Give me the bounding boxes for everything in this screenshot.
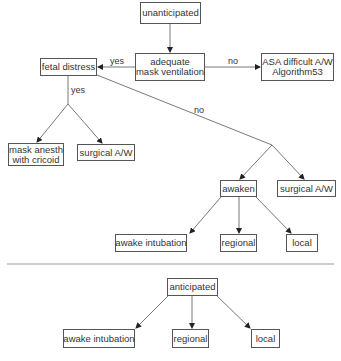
node-label: local (292, 238, 312, 248)
arrow-awaken-to-local (256, 197, 291, 233)
line-fetal-no-diag (97, 75, 272, 145)
node-label: fetal distress (42, 62, 95, 72)
node-label: surgical A/W (80, 148, 133, 158)
node-label: regional (174, 334, 208, 344)
node-label: anticipated (170, 282, 216, 292)
node-awake-intubation-1: awake intubation (115, 234, 187, 252)
node-unanticipated: unanticipated (140, 2, 201, 24)
node-label: awake intubation (115, 238, 186, 248)
node-regional-2: regional (172, 329, 209, 348)
arrow-anticipated-to-local (217, 296, 250, 328)
node-label: local (256, 334, 276, 344)
node-adequate-mask-ventilation: adequate mask ventilation (135, 53, 205, 81)
node-label: regional (222, 238, 256, 248)
node-label-line2: with cricoid (13, 155, 60, 165)
node-label: awake intubation (63, 334, 134, 344)
arrow-to-surgical-left (68, 104, 102, 143)
node-awake-intubation-2: awake intubation (63, 329, 135, 348)
node-label: awaken (222, 184, 255, 194)
node-awaken: awaken (220, 180, 257, 197)
node-label-line2: mask ventilation (136, 67, 204, 77)
arrow-awaken-to-awake-intubation (190, 197, 221, 233)
arrow-anticipated-to-awake-intubation (136, 296, 168, 328)
node-surgical-aw-right: surgical A/W (277, 180, 336, 197)
edge-label-no-right: no (228, 56, 238, 66)
arrow-to-awaken (240, 145, 272, 179)
node-surgical-aw-left: surgical A/W (77, 144, 135, 161)
node-fetal-distress: fetal distress (40, 58, 97, 76)
node-regional-1: regional (220, 234, 257, 252)
node-local-1: local (286, 234, 318, 252)
edge-label-yes-down: yes (71, 85, 85, 95)
edge-label-yes-left: yes (110, 56, 124, 66)
node-label-line2: Algorithm53 (272, 67, 323, 77)
node-asa-difficult-aw: ASA difficult A/W Algorithm53 (261, 53, 334, 81)
arrow-to-surgical-right (272, 145, 304, 179)
arrow-to-mask-anesth (37, 104, 68, 142)
node-label: surgical A/W (280, 184, 333, 194)
node-local-2: local (251, 329, 280, 348)
node-mask-anesth-cricoid: mask anesth with cricoid (8, 143, 64, 166)
node-anticipated: anticipated (167, 278, 218, 296)
edge-label-no-diag: no (194, 105, 204, 115)
node-label-line1: mask anesth (9, 145, 63, 155)
node-label: unanticipated (142, 8, 199, 18)
